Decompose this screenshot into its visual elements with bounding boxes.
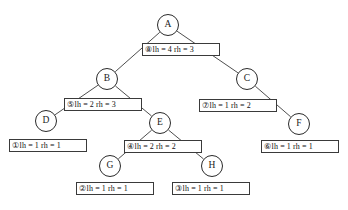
order-marker-icon: ⑥ — [264, 142, 271, 151]
annotation-text: lh = 1 rh = 1 — [272, 142, 313, 151]
tree-node-label: C — [244, 74, 250, 84]
order-marker-icon: ⑧ — [145, 45, 152, 54]
tree-node-g[interactable]: G — [99, 155, 121, 177]
annotation-box-8: ⑧lh = 4 rh = 3 — [142, 43, 220, 56]
tree-node-f[interactable]: F — [288, 113, 310, 135]
annotation-text: lh = 2 rh = 3 — [75, 100, 116, 109]
annotation-box-4: ④lh = 2 rh = 2 — [124, 140, 202, 153]
annotation-box-3: ③lh = 1 rh = 1 — [172, 182, 250, 195]
annotation-box-5: ⑤lh = 2 rh = 3 — [64, 98, 142, 111]
tree-node-label: H — [209, 161, 216, 171]
order-marker-icon: ③ — [175, 184, 182, 193]
annotation-box-6: ⑥lh = 1 rh = 1 — [261, 140, 339, 153]
annotation-text: lh = 1 rh = 1 — [87, 184, 128, 193]
order-marker-icon: ⑦ — [202, 101, 209, 110]
annotation-text: lh = 2 rh = 2 — [135, 142, 176, 151]
order-marker-icon: ④ — [127, 142, 134, 151]
tree-node-label: A — [165, 20, 172, 30]
annotation-text: lh = 4 rh = 3 — [153, 45, 194, 54]
order-marker-icon: ① — [12, 141, 19, 150]
tree-node-c[interactable]: C — [236, 68, 258, 90]
tree-node-label: G — [107, 161, 114, 171]
tree-node-label: E — [157, 118, 163, 128]
tree-node-b[interactable]: B — [96, 68, 118, 90]
tree-node-label: B — [104, 74, 110, 84]
annotation-box-7: ⑦lh = 1 rh = 2 — [199, 99, 277, 112]
annotation-text: lh = 1 rh = 1 — [183, 184, 224, 193]
tree-node-label: D — [43, 116, 50, 126]
order-marker-icon: ② — [79, 184, 86, 193]
order-marker-icon: ⑤ — [67, 100, 74, 109]
annotation-text: lh = 1 rh = 2 — [210, 101, 251, 110]
tree-node-label: F — [296, 119, 301, 129]
tree-node-e[interactable]: E — [149, 112, 171, 134]
tree-node-a[interactable]: A — [157, 14, 179, 36]
tree-node-h[interactable]: H — [201, 155, 223, 177]
annotation-box-1: ①lh = 1 rh = 1 — [9, 139, 87, 152]
tree-node-d[interactable]: D — [35, 110, 57, 132]
annotation-box-2: ②lh = 1 rh = 1 — [76, 182, 154, 195]
tree-diagram: A B C D E F G H ⑧lh = 4 rh = 3 ⑤lh = 2 r… — [0, 0, 348, 210]
annotation-text: lh = 1 rh = 1 — [20, 141, 61, 150]
